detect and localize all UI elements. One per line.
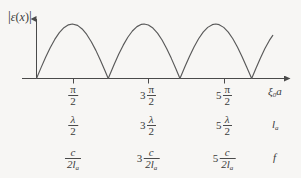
fraction-lambda-2: λ 2 bbox=[223, 114, 233, 137]
fraction-denominator: 2 bbox=[68, 126, 78, 137]
fraction-denominator: 2 bbox=[222, 96, 232, 107]
fraction-denominator: 2 bbox=[147, 126, 157, 137]
tick-label-pi-over-2: π 2 bbox=[68, 84, 78, 107]
fraction-denominator-sub: a bbox=[76, 164, 80, 172]
fraction-denominator: 2la bbox=[65, 159, 81, 172]
fraction-denominator-sub: a bbox=[230, 164, 234, 172]
fraction-c-2la: c 2la bbox=[143, 147, 159, 172]
fraction-denominator: 2 bbox=[68, 96, 78, 107]
fraction-pi-2: π 2 bbox=[68, 84, 78, 107]
fraction-denominator: 2 bbox=[223, 126, 233, 137]
fraction-denominator-base: 2l bbox=[145, 158, 154, 170]
row-f-label-5c-over-2la: 5 c 2la bbox=[213, 147, 236, 172]
tick-label-5pi-over-2: 5 π 2 bbox=[216, 84, 232, 107]
row-la-end-label-sub: a bbox=[275, 124, 279, 132]
fraction-denominator-base: 2l bbox=[221, 158, 230, 170]
fraction-denominator: 2la bbox=[143, 159, 159, 172]
x-axis-end-label: ξ0a bbox=[268, 85, 282, 99]
fraction-lambda-2: λ 2 bbox=[147, 114, 157, 137]
row-la-label-lambda-over-2: λ 2 bbox=[68, 114, 78, 137]
fraction-c-2la: c 2la bbox=[219, 147, 235, 172]
x-axis-end-a: a bbox=[276, 85, 282, 97]
figure-container: |ε(x)| ξ0a π 2 3 bbox=[0, 0, 301, 178]
fraction-c-2la: c 2la bbox=[65, 147, 81, 172]
row-la-label-3lambda-over-2: 3 λ 2 bbox=[140, 114, 156, 137]
row-f-end-label: f bbox=[273, 151, 276, 163]
tick-label-3pi-over-2: 3 π 2 bbox=[140, 84, 156, 107]
fraction-denominator-base: 2l bbox=[67, 158, 76, 170]
row-la-end-label: la bbox=[272, 118, 279, 132]
row-la-label-5lambda-over-2: 5 λ 2 bbox=[216, 114, 232, 137]
fraction-denominator: 2 bbox=[146, 96, 156, 107]
fraction-denominator: 2la bbox=[219, 159, 235, 172]
fraction-pi-2: π 2 bbox=[146, 84, 156, 107]
row-f-label-3c-over-2la: 3 c 2la bbox=[137, 147, 160, 172]
fraction-lambda-2: λ 2 bbox=[68, 114, 78, 137]
row-f-label-c-over-2la: c 2la bbox=[65, 147, 81, 172]
fraction-pi-2: π 2 bbox=[222, 84, 232, 107]
fraction-denominator-sub: a bbox=[154, 164, 158, 172]
field-magnitude-curve bbox=[37, 24, 273, 79]
